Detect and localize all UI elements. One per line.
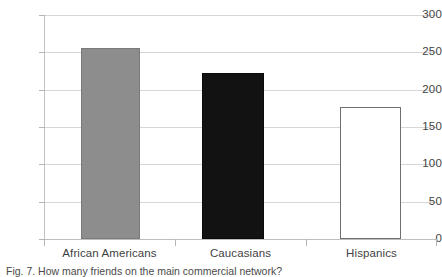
x-category-label-hispanics: Hispanics [306,246,437,260]
bar-caucasians[interactable] [202,73,264,239]
x-tick-mark-3 [436,239,437,246]
figure-caption: Fig. 7. How many friends on the main com… [6,265,442,277]
y-tick-label-250: 250 [408,46,442,58]
gridline-300 [44,15,437,16]
y-tick-mark-250 [39,52,45,53]
plot-area: 300 250 200 150 100 50 0 African America… [0,0,442,246]
y-tick-mark-150 [39,127,45,128]
y-tick-label-150: 150 [408,121,442,133]
bar-african-americans[interactable] [81,48,140,239]
gridline-0 [44,239,437,240]
y-tick-label-200: 200 [408,84,442,96]
y-tick-mark-100 [39,164,45,165]
x-tick-mark-2 [306,239,307,246]
y-tick-label-100: 100 [408,158,442,170]
y-tick-mark-200 [39,90,45,91]
y-tick-label-300: 300 [408,9,442,21]
y-tick-mark-300 [39,15,45,16]
x-tick-mark-0 [44,239,45,246]
y-tick-mark-50 [39,202,45,203]
x-category-label-caucasians: Caucasians [175,246,306,260]
y-tick-label-50: 50 [408,196,442,208]
x-tick-mark-1 [175,239,176,246]
x-category-label-african-americans: African Americans [44,246,175,260]
bar-hispanics[interactable] [340,107,401,239]
